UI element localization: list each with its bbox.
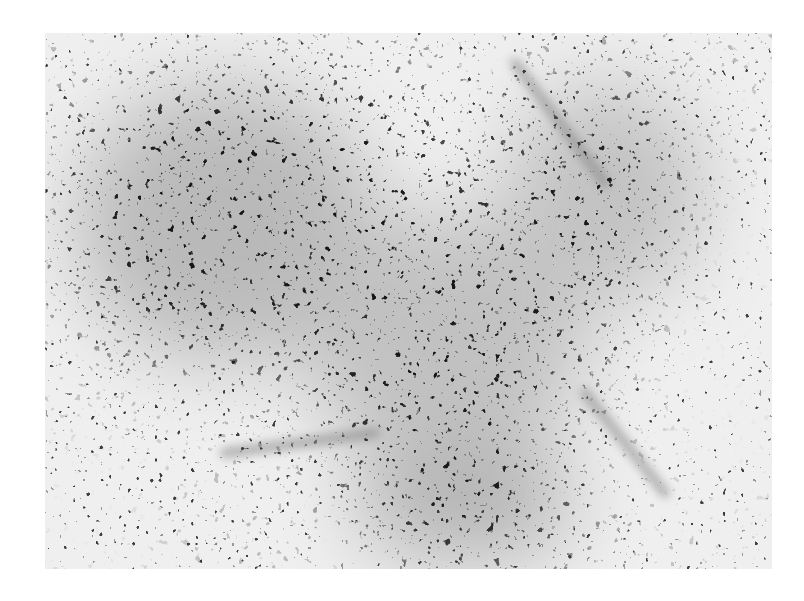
nuclei-dense-layer <box>45 33 772 569</box>
page-canvas <box>0 0 804 601</box>
micrograph-texture <box>45 33 772 569</box>
micrograph-image <box>45 33 772 569</box>
